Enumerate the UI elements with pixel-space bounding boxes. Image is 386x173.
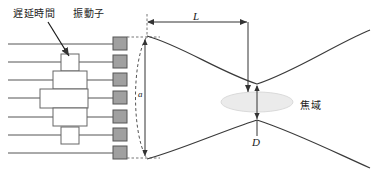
label-focal-zone: 焦域 xyxy=(300,97,321,112)
ultrasound-focusing-diagram: 遅延時間 振動子 焦域 L D a xyxy=(0,0,386,173)
label-transducer: 振動子 xyxy=(73,5,105,20)
delay-box-row-6 xyxy=(61,127,79,144)
label-length-L: L xyxy=(193,10,199,22)
label-diameter-D: D xyxy=(252,136,260,148)
diagram-canvas xyxy=(0,0,386,173)
delay-box-row-3 xyxy=(53,71,87,89)
transducer-element-6 xyxy=(113,128,127,141)
label-delay-time: 遅延時間 xyxy=(13,5,55,20)
transducer-elements xyxy=(113,37,127,159)
delay-box-row-2 xyxy=(61,54,79,71)
transducer-element-7 xyxy=(113,146,127,159)
delay-time-leader-arrow xyxy=(48,22,69,56)
transducer-element-3 xyxy=(113,73,127,86)
reference-guides xyxy=(127,14,160,158)
delay-boxes xyxy=(40,54,88,144)
beam-envelope-upper xyxy=(147,30,370,84)
transducer-element-1 xyxy=(113,37,127,50)
delay-box-row-5 xyxy=(53,108,87,126)
transducer-element-5 xyxy=(113,110,127,123)
label-aperture-a: a xyxy=(138,89,143,99)
transducer-element-4 xyxy=(113,91,127,104)
delay-box-row-4 xyxy=(40,89,88,108)
transducer-element-2 xyxy=(113,55,127,68)
